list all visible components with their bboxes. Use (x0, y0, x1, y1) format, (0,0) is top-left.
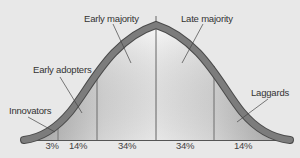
leader-innovators (28, 117, 55, 132)
diffusion-bell-curve-diagram: Early majority Late majority Early adopt… (0, 0, 300, 158)
label-early-adopters: Early adopters (33, 64, 91, 75)
percent-early-adopters: 14% (69, 140, 87, 151)
percent-laggards: 14% (234, 140, 252, 151)
label-innovators: Innovators (9, 105, 51, 116)
label-late-majority: Late majority (181, 13, 233, 24)
percent-early-majority: 34% (118, 140, 136, 151)
label-laggards: Laggards (251, 87, 289, 98)
percent-innovators: 3% (45, 140, 58, 151)
bell-curve-graphic (0, 0, 300, 158)
label-early-majority: Early majority (84, 13, 139, 24)
percent-late-majority: 34% (176, 140, 194, 151)
